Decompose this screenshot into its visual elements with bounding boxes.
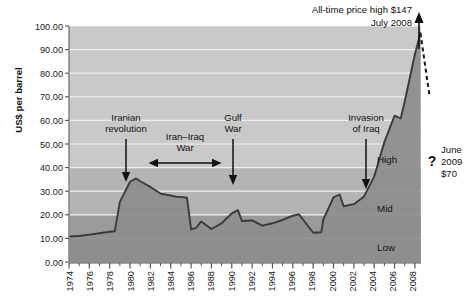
band-label-low: Low (377, 242, 396, 253)
y-tick-label-0: 0.00 (45, 258, 63, 268)
x-tick-label-1996: 1996 (287, 271, 297, 291)
y-tick-label-80: 80.00 (40, 69, 63, 79)
x-tick-label-1990: 1990 (227, 271, 237, 291)
x-tick-label-2006: 2006 (388, 271, 398, 291)
band-label-high: High (377, 154, 397, 165)
x-tick-label-1980: 1980 (126, 271, 136, 291)
iranian-revolution-line2: revolution (105, 123, 147, 134)
y-tick-label-20: 20.00 (40, 210, 63, 220)
x-tick-label-1992: 1992 (247, 271, 257, 291)
band-label-mid: Mid (377, 203, 393, 214)
question-mark-icon: ? (428, 153, 437, 169)
june-2009-line1: June (441, 144, 462, 155)
all-time-high-line1: All-time price high $147 (312, 4, 412, 15)
x-tick-label-2002: 2002 (348, 271, 358, 291)
x-tick-label-2000: 2000 (328, 271, 338, 291)
x-tick-label-2004: 2004 (368, 271, 378, 291)
chart-canvas: US$ per barrel 100.00 90.00 80.00 70.00 … (0, 0, 474, 303)
x-tick-label-1994: 1994 (267, 271, 277, 291)
x-tick-label-1988: 1988 (206, 271, 216, 291)
iran-iraq-line1: Iran–Iraq (166, 131, 204, 142)
y-tick-label-100: 100.00 (35, 22, 63, 32)
x-tick-label-2008: 2008 (408, 271, 418, 291)
oil-price-chart: US$ per barrel 100.00 90.00 80.00 70.00 … (0, 0, 474, 303)
x-tick-label-1978: 1978 (105, 271, 115, 291)
x-tick-label-1974: 1974 (65, 271, 75, 291)
june-2009-line2: 2009 (441, 156, 462, 167)
x-tick-label-1976: 1976 (85, 271, 95, 291)
june-2009-line3: $70 (441, 168, 457, 179)
x-tick-label-1986: 1986 (186, 271, 196, 291)
iranian-revolution-line1: Iranian (111, 112, 140, 123)
all-time-high-line2: July 2008 (371, 17, 412, 28)
y-tick-label-90: 90.00 (40, 45, 63, 55)
y-tick-label-30: 30.00 (40, 187, 63, 197)
y-tick-label-60: 60.00 (40, 116, 63, 126)
y-tick-label-50: 50.00 (40, 140, 63, 150)
y-tick-label-40: 40.00 (40, 163, 63, 173)
invasion-line1: Invasion (348, 112, 384, 123)
y-tick-label-70: 70.00 (40, 92, 63, 102)
y-tick-label-10: 10.00 (40, 234, 63, 244)
y-axis-title: US$ per barrel (13, 67, 24, 133)
gulf-war-line1: Gulf (224, 112, 242, 123)
x-tick-label-1998: 1998 (307, 271, 317, 291)
x-tick-label-1982: 1982 (146, 271, 156, 291)
gulf-war-line2: War (224, 123, 242, 134)
x-tick-label-1984: 1984 (166, 271, 176, 291)
iran-iraq-line2: War (176, 142, 194, 153)
invasion-line2: of Iraq (352, 123, 379, 134)
